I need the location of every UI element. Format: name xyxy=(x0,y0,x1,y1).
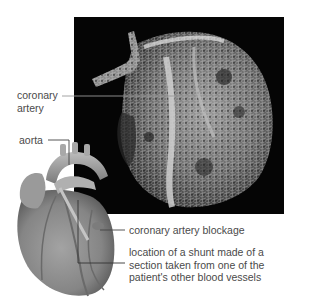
label-shunt-line1: location of a shunt made of a xyxy=(129,246,264,259)
label-aorta: aorta xyxy=(19,134,43,147)
label-coronary-artery: coronary artery xyxy=(17,89,58,114)
heart-drawing xyxy=(0,140,130,304)
label-coronary-line2: artery xyxy=(17,102,58,115)
label-coronary-artery-blockage: coronary artery blockage xyxy=(129,224,245,237)
label-shunt-location: location of a shunt made of a section ta… xyxy=(129,246,264,284)
label-shunt-line2: section taken from one of the xyxy=(129,259,264,272)
label-coronary-line1: coronary xyxy=(17,89,58,102)
heart-illustration xyxy=(0,140,130,304)
label-shunt-line3: patient's other blood vessels xyxy=(129,271,264,284)
